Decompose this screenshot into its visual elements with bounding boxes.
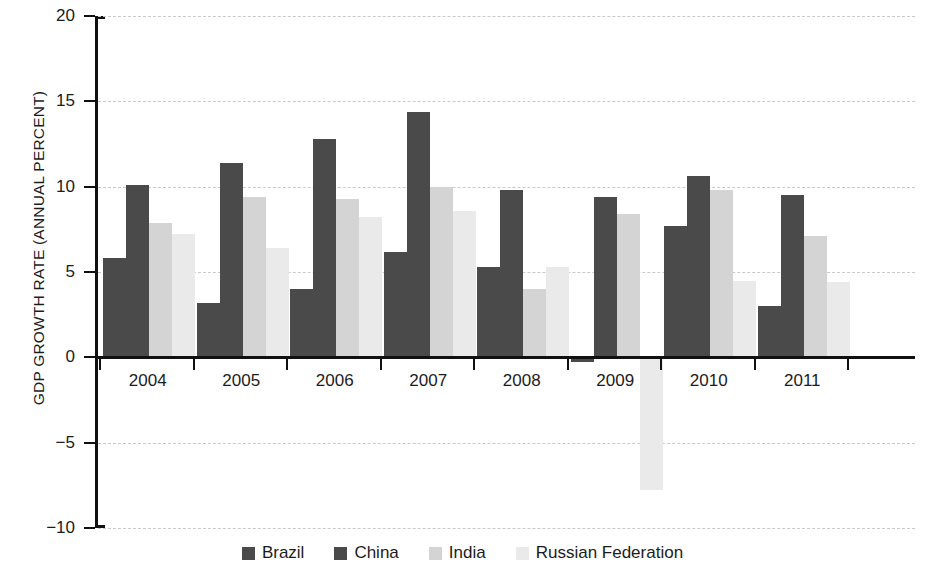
x-axis-label-2011: 2011 [757, 371, 847, 391]
bar-china-2005 [220, 163, 243, 358]
bar-india-2011 [804, 236, 827, 357]
gridline-20 [98, 16, 915, 18]
gridline--5 [98, 443, 915, 445]
y-tick-label--5: −5 [15, 433, 75, 453]
y-tick-label--10: −10 [15, 518, 75, 538]
x-tick-5 [567, 359, 569, 370]
legend-item-china[interactable]: China [334, 543, 398, 563]
x-tick-6 [660, 359, 662, 370]
bar-china-2008 [500, 190, 523, 357]
legend-label: China [354, 543, 398, 563]
bar-india-2004 [149, 223, 172, 358]
y-tick-0 [84, 356, 95, 358]
legend-label: Brazil [262, 543, 305, 563]
bar-russian-federation-2011 [827, 282, 850, 357]
x-tick-2 [286, 359, 288, 370]
bar-china-2010 [687, 176, 710, 357]
bar-india-2006 [336, 199, 359, 358]
y-tick-15 [84, 100, 95, 102]
x-tick-4 [473, 359, 475, 370]
bar-india-2005 [243, 197, 266, 357]
bar-russian-federation-2008 [546, 267, 569, 357]
x-tick-0 [99, 359, 101, 370]
bar-india-2010 [710, 190, 733, 357]
bar-brazil-2004 [103, 258, 126, 357]
y-tick-label-0: 0 [15, 347, 75, 367]
bar-india-2009 [617, 214, 640, 357]
x-tick-3 [380, 359, 382, 370]
x-axis-label-2004: 2004 [103, 371, 193, 391]
y-tick-5 [84, 271, 95, 273]
bar-brazil-2005 [197, 303, 220, 358]
y-tick--10 [84, 527, 95, 529]
x-axis-label-2009: 2009 [570, 371, 660, 391]
y-tick-label-5: 5 [15, 262, 75, 282]
x-tick-8 [847, 359, 849, 370]
bar-russian-federation-2010 [733, 281, 756, 358]
y-tick-10 [84, 186, 95, 188]
bar-brazil-2011 [758, 306, 781, 357]
legend-item-russian-federation[interactable]: Russian Federation [516, 543, 683, 563]
bar-russian-federation-2007 [453, 211, 476, 358]
bar-india-2008 [523, 289, 546, 357]
bar-russian-federation-2006 [359, 217, 382, 357]
bar-brazil-2007 [384, 252, 407, 358]
x-axis-label-2007: 2007 [383, 371, 473, 391]
bar-brazil-2006 [290, 289, 313, 357]
x-axis-label-2010: 2010 [664, 371, 754, 391]
y-tick--5 [84, 442, 95, 444]
y-tick-label-20: 20 [15, 6, 75, 26]
bar-russian-federation-2004 [172, 234, 195, 357]
x-axis-label-2005: 2005 [196, 371, 286, 391]
x-tick-1 [193, 359, 195, 370]
legend-swatch-icon [516, 547, 529, 560]
bar-russian-federation-2005 [266, 248, 289, 357]
bar-china-2006 [313, 139, 336, 357]
bar-china-2009 [594, 197, 617, 357]
legend-swatch-icon [429, 547, 442, 560]
bar-india-2007 [430, 187, 453, 358]
legend-label: Russian Federation [536, 543, 683, 563]
x-axis-label-2006: 2006 [290, 371, 380, 391]
zero-axis-line [95, 356, 915, 359]
legend-swatch-icon [242, 547, 255, 560]
bar-china-2007 [407, 112, 430, 358]
chart-legend: BrazilChinaIndiaRussian Federation [0, 543, 925, 563]
x-axis-label-2008: 2008 [477, 371, 567, 391]
plot-area: 20151050−5−10 20042005200620072008200920… [95, 16, 915, 528]
bar-china-2004 [126, 185, 149, 357]
bar-china-2011 [781, 195, 804, 357]
y-tick-label-15: 15 [15, 91, 75, 111]
legend-label: India [449, 543, 486, 563]
bar-brazil-2010 [664, 226, 687, 357]
y-tick-20 [84, 15, 95, 17]
gdp-growth-bar-chart: GDP GROWTH RATE (ANNUAL PERCENT) 2015105… [0, 0, 925, 574]
legend-item-india[interactable]: India [429, 543, 486, 563]
y-tick-label-10: 10 [15, 177, 75, 197]
legend-swatch-icon [334, 547, 347, 560]
gridline--10 [98, 528, 915, 530]
legend-item-brazil[interactable]: Brazil [242, 543, 305, 563]
x-tick-7 [754, 359, 756, 370]
bar-brazil-2008 [477, 267, 500, 357]
gridline-15 [98, 101, 915, 103]
